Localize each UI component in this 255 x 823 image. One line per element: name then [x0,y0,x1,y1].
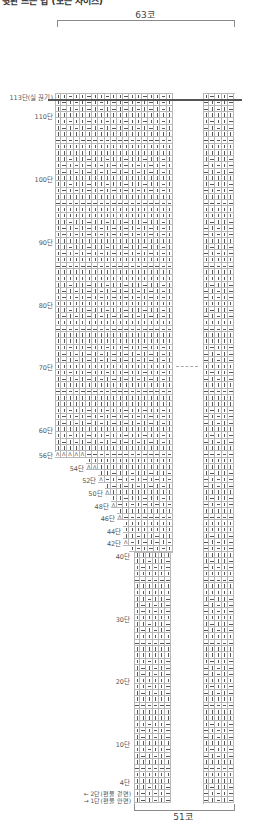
purl-stitch-cell [167,502,173,508]
bottom-stitch-count: 51코 [158,810,208,823]
top-stitch-count: 63코 [120,8,170,21]
knit-stitch-cell [167,533,173,539]
knit-stitch-cell [167,458,173,464]
row-label: 30단 [116,614,130,624]
row-label: 110단 [35,111,53,121]
row-label: 54단 [70,463,84,473]
row-label: 50단 [88,488,102,498]
purl-stitch-cell [167,539,173,545]
top-width-bracket [57,20,235,27]
row-label: 60단 [39,425,53,435]
row-label: 90단 [39,237,53,247]
knit-stitch-cell [167,495,173,501]
lower-left-block-frame [134,552,173,804]
row-label: 40단 [116,551,130,561]
row-label: 4단 [120,777,130,787]
cut-yarn-line [48,99,242,101]
purl-stitch-cell [167,476,173,482]
knit-stitch-cell [167,508,173,514]
row-label: 20단 [116,676,130,686]
center-dashed-marker [176,366,198,367]
knit-stitch-cell [167,483,173,489]
purl-stitch-cell [167,470,173,476]
row-label: 44단 [107,526,121,536]
row-label: 52단 [82,475,96,485]
chart-heading: 뒷판 뜨는 법 (모든 사이즈) [2,0,103,7]
knit-stitch-cell [167,527,173,533]
row-label: 100단 [35,174,53,184]
row-label: 56단 [39,450,53,460]
knit-stitch-cell [167,464,173,470]
knit-stitch-cell [167,520,173,526]
knit-stitch-cell [167,489,173,495]
row-label: 46단 [101,513,115,523]
row-label: 70단 [39,362,53,372]
purl-stitch-cell [167,514,173,520]
right-block-frame [203,93,235,804]
row-label: 80단 [39,300,53,310]
row-label: 48단 [95,501,109,511]
row-label: 113단(실 끊기) [9,92,53,102]
row-label: 10단 [116,739,130,749]
upper-left-block-frame [55,93,173,452]
direction-legend: → 1단(편물 안면) [84,796,131,805]
row-label: 42단 [107,538,121,548]
